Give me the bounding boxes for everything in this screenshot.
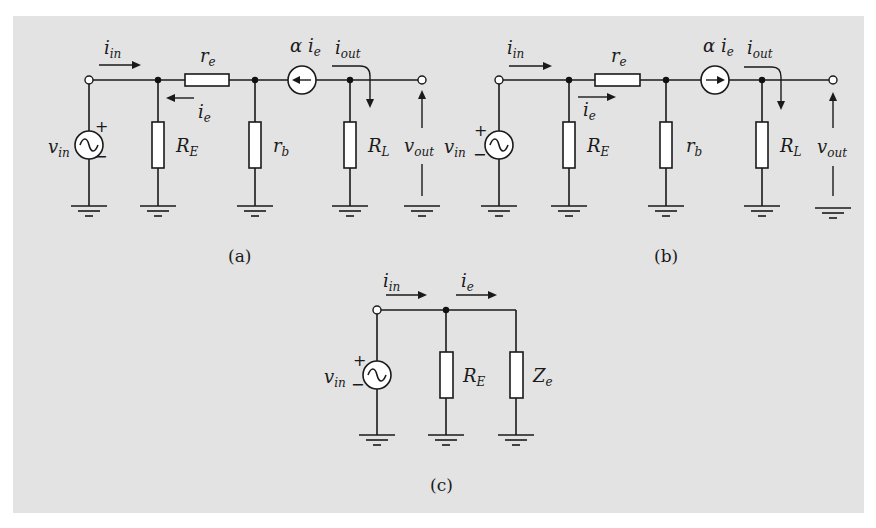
label-iin: iin xyxy=(104,37,121,61)
input-terminal xyxy=(85,76,93,84)
arrow-up-icon xyxy=(418,90,426,99)
resistor-RE xyxy=(440,352,453,398)
label-RE: RE xyxy=(586,135,610,159)
label-ie: ie xyxy=(461,270,474,294)
label-iin: iin xyxy=(383,270,400,294)
circuit-b: + − vin RE re ie iin rb α ie xyxy=(444,35,851,266)
label-alpha-ie: α ie xyxy=(290,35,321,59)
arrow-right-icon xyxy=(607,93,616,101)
label-rb: rb xyxy=(686,135,702,159)
label-iout: iout xyxy=(335,37,361,61)
caption-c: (c) xyxy=(430,475,453,495)
minus-sign: − xyxy=(351,375,364,394)
resistor-RE xyxy=(152,122,164,168)
ground-icon xyxy=(648,206,684,216)
label-iout: iout xyxy=(747,37,773,61)
arrow-right-icon xyxy=(488,291,497,299)
ac-voltage-source-icon xyxy=(363,361,391,389)
arrow-right-icon xyxy=(543,62,552,70)
resistor-rb xyxy=(249,122,261,168)
resistor-RL xyxy=(756,122,768,168)
resistor-re xyxy=(185,74,229,86)
arrow-down-icon xyxy=(366,99,374,108)
ground-icon xyxy=(404,206,440,216)
minus-sign: − xyxy=(94,147,107,166)
ground-icon xyxy=(551,206,587,216)
minus-sign: − xyxy=(473,145,486,164)
arrow-right-icon xyxy=(132,61,141,69)
circuit-figure: + − vin RE re ie iin rb α ie xyxy=(0,0,876,528)
arrow-down-icon xyxy=(777,101,785,110)
ground-icon xyxy=(359,435,395,445)
label-RL: RL xyxy=(367,135,390,159)
arrow-up-icon xyxy=(829,92,837,101)
impedance-Ze xyxy=(510,352,523,398)
ground-icon xyxy=(332,206,368,216)
ground-icon xyxy=(744,206,780,216)
circuit-a: + − vin RE re ie iin rb α ie xyxy=(48,35,440,266)
arrow-right-icon xyxy=(418,291,427,299)
resistor-re xyxy=(595,74,640,86)
label-Ze: Ze xyxy=(532,365,553,389)
label-RL: RL xyxy=(779,135,802,159)
label-iin: iin xyxy=(507,37,524,61)
resistor-RE xyxy=(563,122,575,168)
plus-sign: + xyxy=(95,117,108,136)
label-vin: vin xyxy=(324,366,346,390)
label-vout: vout xyxy=(817,136,847,160)
output-terminal xyxy=(418,76,426,84)
ac-voltage-source-icon xyxy=(485,131,513,159)
input-terminal xyxy=(373,306,381,314)
label-ie: ie xyxy=(198,101,211,125)
label-RE: RE xyxy=(462,365,486,389)
label-re: re xyxy=(200,45,216,69)
plus-sign: + xyxy=(353,351,366,370)
ground-icon xyxy=(481,206,517,216)
arrow-left-icon xyxy=(166,94,175,102)
label-re: re xyxy=(611,45,627,69)
label-rb: rb xyxy=(273,135,289,159)
ground-icon xyxy=(71,206,107,216)
ground-icon xyxy=(815,208,851,218)
ground-icon xyxy=(237,206,273,216)
ground-icon xyxy=(140,206,176,216)
label-alpha-ie: α ie xyxy=(703,35,734,59)
plus-sign: + xyxy=(474,121,487,140)
resistor-rb xyxy=(660,122,672,168)
label-vout: vout xyxy=(404,135,434,159)
label-RE: RE xyxy=(175,135,199,159)
caption-b: (b) xyxy=(654,246,678,266)
label-ie: ie xyxy=(583,99,596,123)
resistor-RL xyxy=(344,122,356,168)
ground-icon xyxy=(428,435,464,445)
label-vin: vin xyxy=(48,136,70,160)
label-vin: vin xyxy=(444,136,466,160)
caption-a: (a) xyxy=(228,246,251,266)
input-terminal xyxy=(495,76,503,84)
output-terminal xyxy=(829,76,837,84)
ground-icon xyxy=(498,435,534,445)
circuit-c: + − vin iin ie RE Ze (c) xyxy=(324,270,553,495)
